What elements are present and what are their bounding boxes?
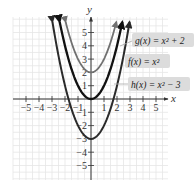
x-tick-label: −3 (47, 102, 58, 113)
x-tick-label: 2 (115, 102, 120, 113)
x-tick-label: 4 (141, 102, 146, 113)
y-tick-label: 4 (82, 40, 87, 51)
y-tick-label: 5 (82, 27, 87, 38)
y-tick-label: −4 (76, 147, 87, 158)
legend-f-text: f(x) = x² (128, 57, 160, 68)
y-tick-label: −3 (76, 133, 87, 144)
x-tick-label: 3 (128, 102, 133, 113)
x-tick-label: −5 (21, 102, 32, 113)
x-tick-label: −2 (60, 102, 71, 113)
graph-figure: x y −5−4−3−2−112345−5−4−3−2−112345 g(x) … (0, 0, 196, 188)
y-axis-label: y (86, 3, 92, 15)
y-tick-label: −1 (76, 107, 87, 118)
y-tick-label: 3 (82, 54, 87, 65)
legend-h-text: h(x) = x² − 3 (131, 80, 181, 91)
x-axis-label: x (170, 92, 176, 104)
x-tick-label: 1 (102, 102, 107, 113)
legend-f: f(x) = x² (125, 54, 170, 68)
legend-g: g(x) = x² + 2 (120, 33, 194, 47)
y-tick-label: 1 (82, 80, 87, 91)
x-tick-label: 5 (154, 102, 159, 113)
x-tick-label: −4 (34, 102, 45, 113)
y-tick-label: −5 (76, 160, 87, 171)
legend-g-text: g(x) = x² + 2 (135, 36, 185, 47)
